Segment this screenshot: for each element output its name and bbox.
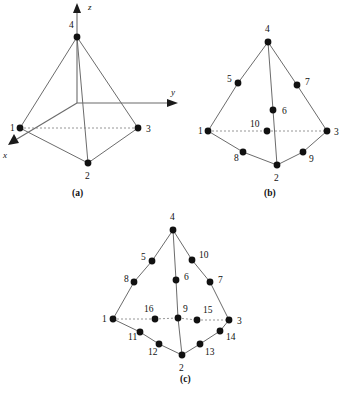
node-dot-2[interactable] [179,352,186,359]
node-label-1: 1 [10,123,15,133]
node-label-10: 10 [250,119,260,129]
edge-8-2 [243,152,277,165]
edge-8-5 [134,261,152,282]
node-dot-1[interactable] [17,125,24,132]
edge-1-2 [20,128,88,163]
axis-arrowhead-z [73,3,81,13]
node-label-5: 5 [227,74,232,84]
node-dot-1[interactable] [205,128,212,135]
node-label-11: 11 [128,332,137,342]
node-label-9: 9 [183,304,188,314]
node-dot-2[interactable] [274,162,281,169]
node-label-7: 7 [218,275,223,285]
node-dot-6[interactable] [270,107,277,114]
edge-1-11 [113,319,140,332]
node-label-6: 6 [282,106,287,116]
node-label-10: 10 [199,250,209,260]
edge-6-9 [176,280,178,318]
panel-b: 12345678910(b) [198,24,339,199]
edge-9-3 [303,131,327,152]
node-label-9: 9 [309,154,314,164]
node-dot-1[interactable] [110,316,117,323]
edge-5-4 [152,230,173,261]
node-dot-9[interactable] [300,149,307,156]
node-dot-8[interactable] [240,149,247,156]
node-dot-10[interactable] [264,128,271,135]
axis-label-x: x [2,150,7,160]
node-label-3: 3 [146,124,151,134]
node-label-14: 14 [226,332,236,342]
edge-1-8 [113,282,134,319]
panel-caption-c: (c) [180,374,191,385]
node-label-4: 4 [69,20,74,30]
edge-dashed-16-9 [155,318,178,319]
edge-2-3 [88,128,138,163]
node-label-1: 1 [102,314,107,324]
edge-1-8 [208,131,243,152]
edge-12-2 [159,344,182,355]
node-label-2: 2 [179,363,184,373]
node-dot-3[interactable] [135,125,142,132]
node-dot-3[interactable] [226,317,233,324]
edge-9-2 [178,318,182,355]
axis-label-z: z [87,2,92,12]
figure-canvas: zyx1234(a)12345678910(b)1234567891011121… [0,0,343,394]
node-dot-3[interactable] [324,128,331,135]
node-dot-4[interactable] [265,39,272,46]
node-label-15: 15 [203,305,213,315]
tetrahedron-element-figure: zyx1234(a)12345678910(b)1234567891011121… [0,0,343,394]
node-label-4: 4 [265,24,270,34]
edge-2-4 [77,37,88,163]
panel-caption-a: (a) [72,188,83,199]
axis-arrowhead-y [167,99,178,107]
edge-7-3 [210,282,229,320]
node-label-13: 13 [205,347,215,357]
node-label-3: 3 [237,316,242,326]
node-dot-15[interactable] [194,317,201,324]
node-label-12: 12 [148,347,158,357]
edge-4-10 [173,230,192,260]
node-dot-9[interactable] [175,315,182,322]
node-label-3: 3 [334,127,339,137]
axis-label-y: y [170,87,175,97]
edge-3-4 [77,37,138,128]
node-label-1: 1 [198,126,203,136]
node-dot-14[interactable] [217,328,224,335]
node-label-2: 2 [85,171,90,181]
node-dot-4[interactable] [170,227,177,234]
node-dot-5[interactable] [235,80,242,87]
node-label-8: 8 [234,153,239,163]
edge-2-9 [277,152,303,165]
edge-7-3 [297,85,327,131]
panel-a: zyx1234(a) [2,2,178,199]
edge-5-4 [238,42,268,83]
node-label-2: 2 [274,173,279,183]
axis-arrowhead-x [8,134,19,145]
edge-1-5 [208,83,238,131]
node-dot-5[interactable] [149,258,156,265]
edge-6-2 [273,110,277,165]
node-label-6: 6 [184,272,189,282]
axis-line-x [17,103,77,139]
edge-4-7 [268,42,297,85]
edge-13-14 [200,331,220,344]
node-label-8: 8 [124,274,129,284]
node-label-5: 5 [141,252,146,262]
node-label-4: 4 [170,212,175,222]
node-dot-8[interactable] [131,279,138,286]
node-dot-7[interactable] [207,279,214,286]
node-label-7: 7 [305,77,310,87]
node-dot-13[interactable] [197,341,204,348]
node-dot-6[interactable] [173,277,180,284]
node-dot-11[interactable] [137,329,144,336]
edge-1-4 [20,37,77,128]
node-dot-4[interactable] [74,34,81,41]
node-dot-7[interactable] [294,82,301,89]
node-dot-16[interactable] [152,316,159,323]
panel-c: 12345678910111213141516(c) [102,212,242,385]
node-dot-10[interactable] [189,257,196,264]
node-dot-2[interactable] [85,160,92,167]
panel-caption-b: (b) [264,188,276,199]
edge-10-7 [192,260,210,282]
edge-4-6 [173,230,176,280]
